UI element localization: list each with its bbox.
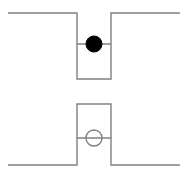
figure-background [0, 0, 186, 178]
potential-diagram-svg [0, 0, 186, 178]
filled-particle-marker [86, 36, 102, 52]
figure-container [0, 0, 186, 178]
